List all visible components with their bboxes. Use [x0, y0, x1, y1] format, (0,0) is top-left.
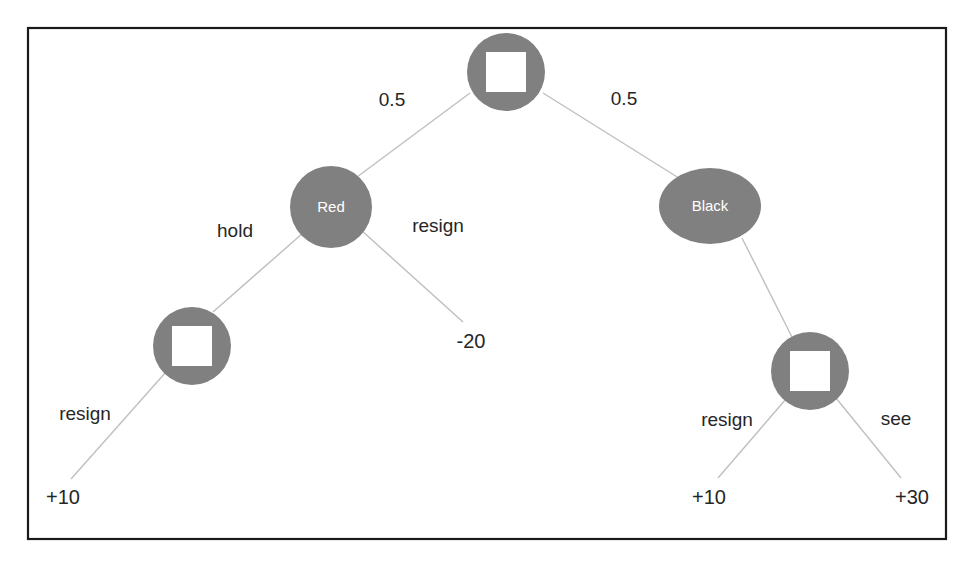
- edge-label-left-resign: resign: [59, 403, 111, 424]
- game-tree-canvas: Red Black 0.5 0.5 hold resign resign res…: [0, 0, 974, 569]
- edge-label-right-resign: resign: [701, 409, 753, 430]
- game-tree-diagram: Red Black 0.5 0.5 hold resign resign res…: [0, 0, 974, 569]
- edge-label-hold: hold: [217, 220, 253, 241]
- edge-root-to-red: [357, 93, 470, 177]
- edge-black-to-right-decision: [742, 238, 792, 337]
- root-node-square: [486, 52, 526, 92]
- edge-red-hold: [213, 233, 303, 312]
- edge-label-see: see: [881, 408, 912, 429]
- payoff-minus-twenty: -20: [457, 330, 486, 352]
- node-red-player[interactable]: Red: [290, 166, 372, 248]
- payoff-right-plus-ten: +10: [692, 486, 726, 508]
- edge-left-decision-resign: [71, 372, 166, 479]
- edge-red-resign: [361, 230, 463, 322]
- right-decision-square: [790, 351, 830, 391]
- edge-label-red-resign: resign: [412, 215, 464, 236]
- payoff-plus-thirty: +30: [895, 486, 929, 508]
- node-left-decision[interactable]: [153, 307, 231, 385]
- node-black-player[interactable]: Black: [659, 168, 761, 244]
- payoff-left-plus-ten: +10: [46, 486, 80, 508]
- edge-label-root-red-probability: 0.5: [379, 89, 405, 110]
- node-right-decision[interactable]: [771, 332, 849, 410]
- node-root-chance[interactable]: [467, 33, 545, 111]
- left-decision-square: [172, 326, 212, 366]
- edge-label-root-black-probability: 0.5: [611, 88, 637, 109]
- red-node-label: Red: [317, 198, 345, 215]
- black-node-label: Black: [692, 197, 729, 214]
